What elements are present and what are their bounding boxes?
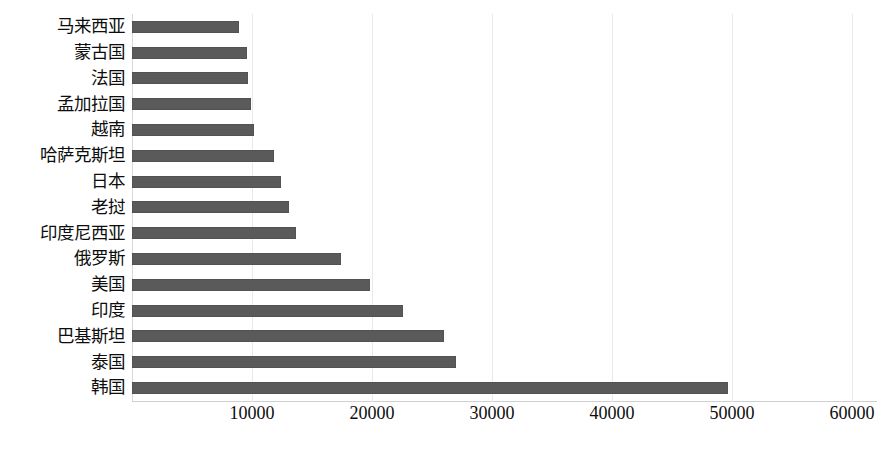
y-tick-label: 法国: [0, 66, 128, 92]
bar: [132, 21, 239, 33]
y-tick-label: 哈萨克斯坦: [0, 143, 128, 169]
bar-row: [132, 298, 876, 324]
x-tick-label: 20000: [350, 404, 395, 422]
bar: [132, 305, 403, 317]
bar-row: [132, 375, 876, 401]
bar-row: [132, 143, 876, 169]
bar-chart: 马来西亚蒙古国法国孟加拉国越南哈萨克斯坦日本老挝印度尼西亚俄罗斯美国印度巴基斯坦…: [0, 0, 885, 459]
y-tick-label: 泰国: [0, 349, 128, 375]
bar-row: [132, 195, 876, 221]
bar-row: [132, 169, 876, 195]
bar-row: [132, 220, 876, 246]
bar: [132, 47, 247, 59]
bar: [132, 98, 251, 110]
bar-row: [132, 66, 876, 92]
y-tick-label: 印度: [0, 298, 128, 324]
y-tick-label: 韩国: [0, 375, 128, 401]
bar-row: [132, 91, 876, 117]
y-tick-label: 巴基斯坦: [0, 324, 128, 350]
bar: [132, 330, 444, 342]
bar-series: [132, 14, 876, 402]
bar: [132, 124, 254, 136]
x-tick-label: 10000: [230, 404, 275, 422]
bar-row: [132, 246, 876, 272]
y-axis-tick-labels: 马来西亚蒙古国法国孟加拉国越南哈萨克斯坦日本老挝印度尼西亚俄罗斯美国印度巴基斯坦…: [0, 14, 128, 402]
y-tick-label: 俄罗斯: [0, 246, 128, 272]
y-tick-label: 越南: [0, 117, 128, 143]
bar: [132, 253, 341, 265]
y-tick-label: 美国: [0, 272, 128, 298]
x-tick-label: 30000: [470, 404, 515, 422]
bar: [132, 176, 281, 188]
bar-row: [132, 40, 876, 66]
x-tick-label: 60000: [830, 404, 875, 422]
y-tick-label: 老挝: [0, 195, 128, 221]
bar: [132, 227, 296, 239]
bar: [132, 150, 274, 162]
y-tick-label: 蒙古国: [0, 40, 128, 66]
x-axis-tick-labels: 100002000030000400005000060000: [0, 404, 885, 434]
bar: [132, 279, 370, 291]
bar-row: [132, 324, 876, 350]
bar: [132, 72, 248, 84]
x-tick-label: 50000: [710, 404, 755, 422]
y-tick-label: 孟加拉国: [0, 91, 128, 117]
bar-row: [132, 14, 876, 40]
y-tick-label: 马来西亚: [0, 14, 128, 40]
bar-row: [132, 272, 876, 298]
bar: [132, 356, 456, 368]
y-tick-label: 印度尼西亚: [0, 220, 128, 246]
bar-row: [132, 117, 876, 143]
bar: [132, 382, 728, 394]
bar: [132, 201, 289, 213]
x-tick-label: 40000: [590, 404, 635, 422]
bar-row: [132, 349, 876, 375]
y-tick-label: 日本: [0, 169, 128, 195]
